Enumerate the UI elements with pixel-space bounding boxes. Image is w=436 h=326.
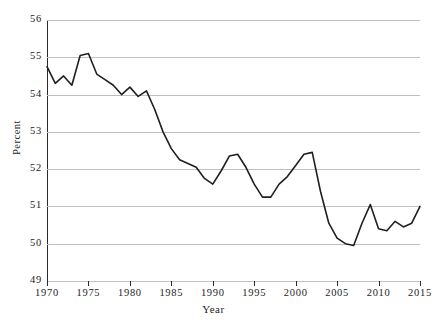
x-tick-label-2010: 2010 bbox=[357, 287, 401, 298]
y-tick-label-55: 55 bbox=[20, 50, 42, 61]
y-tick-label-56: 56 bbox=[20, 13, 42, 24]
x-tick-label-1985: 1985 bbox=[149, 287, 193, 298]
x-tick-1995 bbox=[254, 281, 255, 286]
x-tick-1985 bbox=[171, 281, 172, 286]
x-tick-2015 bbox=[420, 281, 421, 286]
x-tick-label-1980: 1980 bbox=[108, 287, 152, 298]
x-tick-1970 bbox=[47, 281, 48, 286]
y-tick-label-49: 49 bbox=[20, 274, 42, 285]
x-tick-2010 bbox=[379, 281, 380, 286]
x-tick-label-1975: 1975 bbox=[66, 287, 110, 298]
y-axis-title: Percent bbox=[11, 98, 22, 178]
x-tick-label-1990: 1990 bbox=[191, 287, 235, 298]
y-tick-label-54: 54 bbox=[20, 88, 42, 99]
x-tick-label-1970: 1970 bbox=[25, 287, 69, 298]
x-tick-1980 bbox=[130, 281, 131, 286]
x-tick-1990 bbox=[213, 281, 214, 286]
x-tick-label-1995: 1995 bbox=[232, 287, 276, 298]
x-tick-label-2005: 2005 bbox=[315, 287, 359, 298]
x-tick-label-2015: 2015 bbox=[398, 287, 436, 298]
y-tick-label-51: 51 bbox=[20, 199, 42, 210]
x-tick-2000 bbox=[296, 281, 297, 286]
y-tick-label-52: 52 bbox=[20, 162, 42, 173]
x-tick-2005 bbox=[337, 281, 338, 286]
x-axis-title: Year bbox=[0, 303, 427, 315]
y-tick-label-50: 50 bbox=[20, 237, 42, 248]
y-tick-label-53: 53 bbox=[20, 125, 42, 136]
x-tick-label-2000: 2000 bbox=[274, 287, 318, 298]
x-tick-1975 bbox=[88, 281, 89, 286]
